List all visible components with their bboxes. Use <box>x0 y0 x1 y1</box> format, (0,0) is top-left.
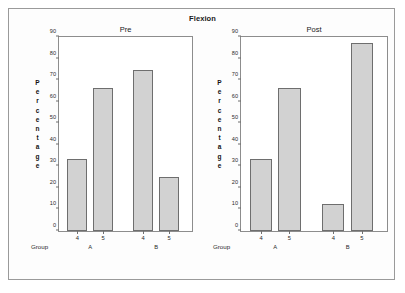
x-tick-mark <box>77 231 78 234</box>
panel-header-pre: Pre <box>58 24 193 37</box>
y-axis-title-letter: n <box>32 124 43 133</box>
x-tick-label: 5 <box>288 235 291 241</box>
y-axis-title-letter: c <box>214 106 225 115</box>
y-axis-title-letter: n <box>214 124 225 133</box>
y-tick-label: 60 <box>50 93 59 99</box>
x-tick-mark <box>362 231 363 234</box>
y-axis-title-letter: P <box>32 78 43 87</box>
group-label: A <box>273 244 277 250</box>
y-tick-label: 40 <box>50 136 59 142</box>
y-tick-label: 40 <box>232 136 241 142</box>
panel-pre: Pre Percentage 01020304050607080904545AB… <box>30 24 195 264</box>
x-tick-label: 5 <box>102 235 105 241</box>
y-tick-mark <box>56 79 59 80</box>
y-axis-title-letter: g <box>32 152 43 161</box>
y-axis-title-letter: r <box>214 96 225 105</box>
bar <box>278 88 300 231</box>
x-axis-caption-pre: Group <box>31 243 48 250</box>
x-tick-mark <box>143 231 144 234</box>
y-tick-mark <box>56 143 59 144</box>
y-tick-mark <box>238 57 241 58</box>
y-tick-label: 0 <box>53 222 59 228</box>
panel-post: Post Percentage 01020304050607080904545A… <box>212 24 390 264</box>
y-tick-mark <box>56 57 59 58</box>
plot-box-post: 01020304050607080904545AB <box>240 37 388 232</box>
panel-title-post: Post <box>240 24 388 35</box>
y-tick-label: 50 <box>50 114 59 120</box>
y-tick-label: 80 <box>232 50 241 56</box>
x-tick-label: 4 <box>142 235 145 241</box>
y-tick-label: 50 <box>232 114 241 120</box>
plot-box-pre: 01020304050607080904545AB <box>58 37 193 232</box>
y-tick-mark <box>56 165 59 166</box>
x-tick-label: 5 <box>167 235 170 241</box>
chart-screenshot: Flexion Pre Percentage 01020304050607080… <box>0 0 405 293</box>
y-tick-mark <box>56 230 59 231</box>
y-tick-mark <box>238 122 241 123</box>
group-label: B <box>154 244 158 250</box>
y-axis-title-letter: e <box>214 115 225 124</box>
y-axis-title-letter: e <box>214 87 225 96</box>
x-axis-caption-post: Group <box>213 243 230 250</box>
y-axis-title-letter: a <box>32 142 43 151</box>
y-tick-mark <box>238 100 241 101</box>
x-tick-label: 4 <box>260 235 263 241</box>
y-tick-mark <box>56 36 59 37</box>
plot-area-post: 01020304050607080904545AB <box>241 37 387 231</box>
y-tick-label: 20 <box>50 179 59 185</box>
x-tick-mark <box>289 231 290 234</box>
y-axis-title-letter: P <box>214 78 225 87</box>
y-axis-title-letter: r <box>32 96 43 105</box>
bar <box>351 43 373 231</box>
page-title: Flexion <box>0 14 405 23</box>
x-tick-label: 4 <box>332 235 335 241</box>
y-axis-title-letter: t <box>32 133 43 142</box>
y-axis-title-letter: e <box>32 87 43 96</box>
x-tick-label: 5 <box>360 235 363 241</box>
bar <box>159 177 179 231</box>
y-tick-mark <box>238 165 241 166</box>
x-tick-mark <box>169 231 170 234</box>
y-tick-label: 90 <box>232 28 241 34</box>
y-axis-title-letter: e <box>214 161 225 170</box>
bar <box>322 204 344 231</box>
y-tick-mark <box>56 122 59 123</box>
y-tick-mark <box>238 143 241 144</box>
bar <box>133 70 153 231</box>
y-axis-title-letter: g <box>214 152 225 161</box>
y-tick-label: 0 <box>235 222 241 228</box>
y-tick-mark <box>56 100 59 101</box>
y-tick-label: 10 <box>50 200 59 206</box>
y-tick-label: 60 <box>232 93 241 99</box>
bar <box>67 159 87 231</box>
y-tick-label: 80 <box>50 50 59 56</box>
bar <box>93 88 113 231</box>
group-label: A <box>88 244 92 250</box>
y-axis-title-pre: Percentage <box>32 78 43 170</box>
x-tick-mark <box>261 231 262 234</box>
panel-header-post: Post <box>240 24 388 37</box>
bar <box>250 159 272 231</box>
y-tick-mark <box>238 186 241 187</box>
y-tick-label: 20 <box>232 179 241 185</box>
y-tick-mark <box>238 36 241 37</box>
y-axis-title-letter: a <box>214 142 225 151</box>
y-tick-mark <box>238 208 241 209</box>
y-tick-mark <box>56 186 59 187</box>
y-tick-label: 30 <box>50 157 59 163</box>
x-tick-label: 4 <box>76 235 79 241</box>
y-tick-mark <box>238 230 241 231</box>
y-tick-label: 30 <box>232 157 241 163</box>
y-axis-title-letter: e <box>32 161 43 170</box>
plot-area-pre: 01020304050607080904545AB <box>59 37 192 231</box>
x-tick-mark <box>103 231 104 234</box>
y-tick-label: 10 <box>232 200 241 206</box>
group-label: B <box>346 244 350 250</box>
y-tick-mark <box>238 79 241 80</box>
y-tick-label: 90 <box>50 28 59 34</box>
y-axis-title-post: Percentage <box>214 78 225 170</box>
y-tick-label: 70 <box>50 71 59 77</box>
y-axis-title-letter: e <box>32 115 43 124</box>
y-tick-label: 70 <box>232 71 241 77</box>
x-tick-mark <box>333 231 334 234</box>
